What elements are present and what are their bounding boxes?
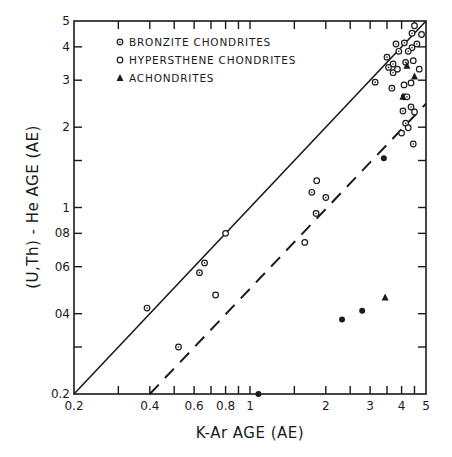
scatter-chart: 0.20.40.60.8123450.204060812345 BRONZITE… (0, 0, 452, 457)
marker-center (315, 213, 317, 215)
marker-center (406, 96, 408, 98)
x-tick-label: 5 (422, 399, 430, 413)
y-tick-label: 5 (62, 14, 70, 28)
marker-center (392, 72, 394, 74)
legend: BRONZITE CHONDRITESHYPERSTHENE CHONDRITE… (117, 36, 297, 84)
y-axis-title: (U,Th) - He AGE (AE) (24, 125, 42, 289)
y-tick-label: 08 (55, 226, 70, 240)
marker-center (407, 50, 409, 52)
marker-center (199, 272, 201, 274)
open-circle-marker (412, 23, 418, 29)
marker-center (204, 262, 206, 264)
series-filled-circles (255, 155, 386, 397)
marker-center (388, 67, 390, 69)
x-tick-label: 0.8 (216, 399, 235, 413)
x-tick-label: 0.4 (140, 399, 159, 413)
open-circle-marker (416, 66, 422, 72)
open-circle-marker (223, 231, 229, 237)
open-circle-marker (213, 292, 219, 298)
open-circle-marker (410, 58, 416, 64)
x-tick-label: 1 (246, 399, 254, 413)
reference-line-half-ratio (150, 104, 426, 394)
legend-label: ACHONDRITES (129, 72, 214, 84)
x-tick-label: 0.2 (64, 399, 83, 413)
filled-circle-marker (381, 155, 387, 161)
marker-center (311, 192, 313, 194)
marker-center (402, 110, 404, 112)
marker-center (405, 62, 407, 64)
triangle-marker (117, 74, 124, 81)
marker-center (403, 42, 405, 44)
legend-label: BRONZITE CHONDRITES (129, 36, 271, 48)
open-circle-marker (401, 82, 407, 88)
x-tick-label: 3 (366, 399, 374, 413)
x-tick-label: 4 (398, 399, 406, 413)
y-tick-label: 4 (62, 40, 70, 54)
open-circle-marker (412, 109, 418, 115)
open-circle-marker (314, 178, 320, 184)
x-tick-label: 2 (322, 399, 330, 413)
legend-item: ACHONDRITES (117, 72, 215, 84)
marker-center (391, 87, 393, 89)
marker-center (392, 63, 394, 65)
marker-center (374, 81, 376, 83)
open-circle-marker (117, 57, 123, 63)
axis-tick-labels: 0.20.40.60.8123450.204060812345 (51, 14, 430, 413)
series-achondrites (382, 62, 418, 301)
marker-center (398, 50, 400, 52)
open-circle-marker (395, 66, 401, 72)
reference-lines (74, 21, 426, 394)
triangle-marker (411, 72, 418, 79)
open-circle-marker (302, 240, 308, 246)
triangle-marker (382, 293, 389, 300)
reference-line-equal-ages (74, 21, 426, 394)
marker-center (416, 43, 418, 45)
marker-center (146, 307, 148, 309)
legend-label: HYPERSTHENE CHONDRITES (129, 54, 296, 66)
marker-center (411, 32, 413, 34)
filled-circle-marker (255, 391, 261, 397)
x-axis-title: K-Ar AGE (AE) (196, 424, 304, 442)
marker-center (405, 122, 407, 124)
marker-center (119, 41, 121, 43)
y-tick-label: 04 (55, 307, 70, 321)
marker-center (325, 197, 327, 199)
open-circle-marker (405, 125, 411, 131)
open-circle-marker (408, 80, 414, 86)
marker-center (386, 56, 388, 58)
y-tick-label: 1 (62, 201, 70, 215)
marker-center (412, 143, 414, 145)
legend-item: BRONZITE CHONDRITES (117, 36, 271, 48)
open-circle-marker (419, 32, 425, 38)
marker-center (411, 47, 413, 49)
marker-center (178, 346, 180, 348)
y-tick-label: 3 (62, 73, 70, 87)
marker-center (395, 43, 397, 45)
filled-circle-marker (339, 317, 345, 323)
filled-circle-marker (359, 308, 365, 314)
y-tick-label: 0.2 (51, 387, 70, 401)
legend-item: HYPERSTHENE CHONDRITES (117, 54, 296, 66)
y-tick-label: 06 (55, 260, 70, 274)
x-tick-label: 0.6 (185, 399, 204, 413)
y-tick-label: 2 (62, 120, 70, 134)
open-circle-marker (399, 130, 405, 136)
marker-center (410, 106, 412, 108)
